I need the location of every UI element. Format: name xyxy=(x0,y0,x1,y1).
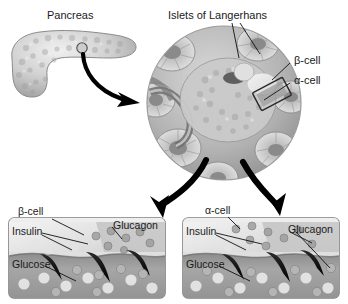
islets-of-langerhans-label: Islets of Langerhans xyxy=(168,10,267,21)
right-panel-glucagon-label: Glucagon xyxy=(288,224,333,235)
pancreas-organ xyxy=(12,31,136,98)
right-panel-insulin-label: Insulin xyxy=(186,226,216,237)
alpha-cell-label: α-cell xyxy=(294,75,321,86)
diagram-svg xyxy=(0,0,348,304)
figure-canvas: Pancreas Islets of Langerhans β-cell α-c… xyxy=(0,0,348,304)
left-panel-glucagon-label: Glucagon xyxy=(113,220,158,231)
left-panel-insulin-label: Insulin xyxy=(12,226,42,237)
left-panel-beta-cell-label: β-cell xyxy=(18,206,43,217)
islet-of-langerhans-circle xyxy=(137,26,309,194)
pancreas-label: Pancreas xyxy=(47,10,93,21)
beta-cell-label: β-cell xyxy=(294,55,321,66)
magnification-site-marker xyxy=(77,43,87,53)
islet-to-right-panel-arrow xyxy=(243,162,286,216)
right-panel-glucose-label: Glucose xyxy=(186,259,225,270)
right-panel-alpha-cell-label: α-cell xyxy=(205,205,230,216)
pancreas-to-islet-arrow xyxy=(83,54,140,107)
left-panel-glucose-label: Glucose xyxy=(12,259,51,270)
